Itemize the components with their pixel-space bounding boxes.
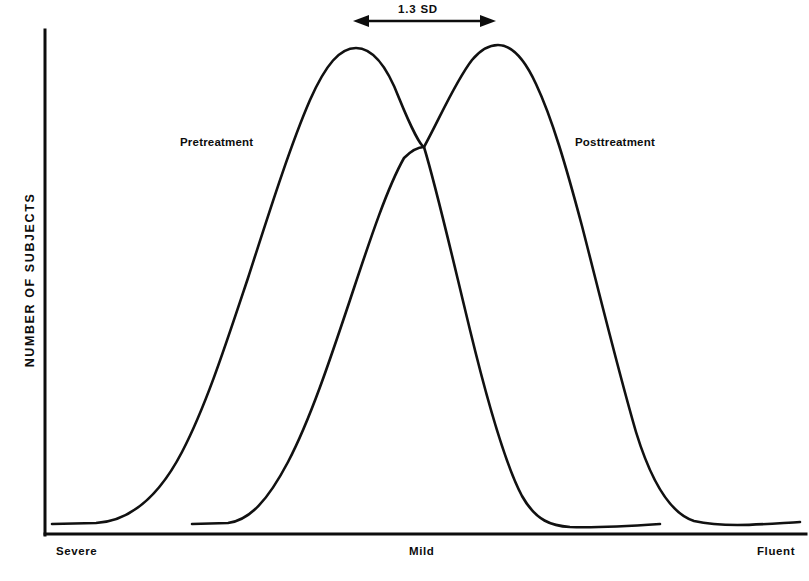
posttreatment-curve-label: Posttreatment: [575, 136, 655, 148]
x-axis-label-fluent: Fluent: [757, 545, 795, 557]
pretreatment-curve-label: Pretreatment: [180, 136, 253, 148]
pretreatment-curve: [52, 48, 660, 527]
posttreatment-curve: [192, 45, 800, 525]
sd-annotation-label: 1.3 SD: [398, 3, 438, 15]
sd-arrow-head-right: [480, 15, 496, 27]
y-axis-title: NUMBER OF SUBJECTS: [23, 155, 37, 405]
chart-figure: 1.3 SD Pretreatment Posttreatment NUMBER…: [0, 0, 809, 581]
chart-canvas: [0, 0, 809, 581]
sd-arrow: [353, 15, 496, 27]
sd-arrow-head-left: [353, 15, 369, 27]
axes: [45, 30, 806, 535]
x-axis-label-severe: Severe: [56, 545, 97, 557]
x-axis-label-mild: Mild: [409, 545, 434, 557]
